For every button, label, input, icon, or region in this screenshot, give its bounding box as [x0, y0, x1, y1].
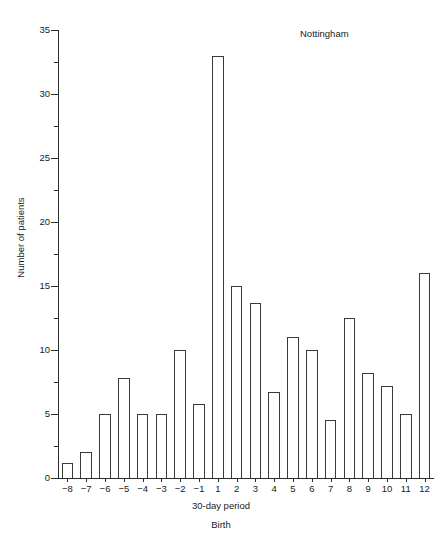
y-tick-minor	[54, 126, 59, 127]
bar	[137, 414, 149, 478]
y-tick-minor	[54, 382, 59, 383]
y-tick-label: 30	[10, 89, 50, 99]
y-tick-label: 15	[10, 281, 50, 291]
bar	[174, 350, 186, 478]
plot-area	[58, 30, 434, 478]
y-tick-major	[51, 350, 59, 351]
y-tick-label: 20	[10, 217, 50, 227]
x-axis-line	[58, 478, 434, 479]
bar	[325, 420, 337, 478]
y-tick-major	[51, 414, 59, 415]
y-tick-major	[51, 94, 59, 95]
x-tick	[312, 478, 313, 482]
bar	[231, 286, 243, 478]
y-tick-minor	[54, 62, 59, 63]
bar	[287, 337, 299, 478]
x-tick-label: 12	[412, 483, 438, 494]
y-tick-major	[51, 222, 59, 223]
bar	[400, 414, 412, 478]
bar	[193, 404, 205, 478]
birth-marker-label: Birth	[0, 519, 442, 530]
x-tick	[218, 478, 219, 482]
y-tick-label: 0	[10, 473, 50, 483]
x-axis-title: 30-day period	[0, 500, 442, 511]
x-tick	[331, 478, 332, 482]
x-tick	[143, 478, 144, 482]
y-tick-major	[51, 158, 59, 159]
bar	[344, 318, 356, 478]
bar	[381, 386, 393, 478]
bar	[99, 414, 111, 478]
x-tick	[105, 478, 106, 482]
y-tick-minor	[54, 318, 59, 319]
y-tick-label: 10	[10, 345, 50, 355]
bar	[80, 452, 92, 478]
bar	[212, 56, 224, 478]
bar	[118, 378, 130, 478]
y-axis-title: Number of patients	[15, 178, 26, 298]
bar	[419, 273, 431, 478]
x-tick	[161, 478, 162, 482]
y-tick-label: 5	[10, 409, 50, 419]
bar	[62, 463, 74, 478]
x-tick	[274, 478, 275, 482]
x-tick	[406, 478, 407, 482]
x-tick	[86, 478, 87, 482]
x-tick	[199, 478, 200, 482]
x-tick	[180, 478, 181, 482]
y-tick-label: 35	[10, 25, 50, 35]
x-tick	[425, 478, 426, 482]
x-tick	[255, 478, 256, 482]
y-tick-minor	[54, 190, 59, 191]
y-tick-label: 25	[10, 153, 50, 163]
x-tick	[124, 478, 125, 482]
y-tick-minor	[54, 254, 59, 255]
x-tick	[67, 478, 68, 482]
chart-figure: Nottingham Number of patients 0510152025…	[0, 0, 442, 549]
y-tick-major	[51, 286, 59, 287]
x-tick	[387, 478, 388, 482]
x-tick	[293, 478, 294, 482]
bar	[362, 373, 374, 478]
y-tick-minor	[54, 446, 59, 447]
x-tick	[237, 478, 238, 482]
bar	[306, 350, 318, 478]
x-tick	[368, 478, 369, 482]
x-tick	[349, 478, 350, 482]
bar	[268, 392, 280, 478]
bar	[250, 303, 262, 478]
bar	[156, 414, 168, 478]
y-tick-major	[51, 478, 59, 479]
y-tick-major	[51, 30, 59, 31]
